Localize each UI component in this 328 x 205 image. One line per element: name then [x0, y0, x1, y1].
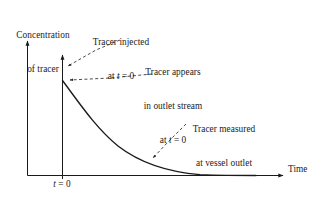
annotation-measured-line1: Tracer measured: [176, 124, 272, 135]
tzero-axis-label: t = 0: [44, 179, 80, 190]
y-axis-title: Concentration of tracer: [2, 7, 84, 98]
annotation-injected-prefix: at: [108, 71, 117, 81]
annotation-appears-line1: Tracer appears: [128, 67, 218, 78]
annotation-tracer-measured: Tracer measured at vessel outlet: [176, 101, 272, 192]
annotation-measured-line2: at vessel outlet: [176, 158, 272, 169]
tracer-response-diagram: Concentration of tracer Time t = 0 Trace…: [0, 0, 328, 205]
y-axis-title-line2: of tracer: [2, 64, 84, 75]
tzero-label-rest: = 0: [56, 179, 71, 189]
annotation-appears-prefix: at: [160, 135, 169, 145]
x-axis-title: Time: [288, 164, 308, 175]
y-axis-title-line1: Concentration: [2, 30, 84, 41]
